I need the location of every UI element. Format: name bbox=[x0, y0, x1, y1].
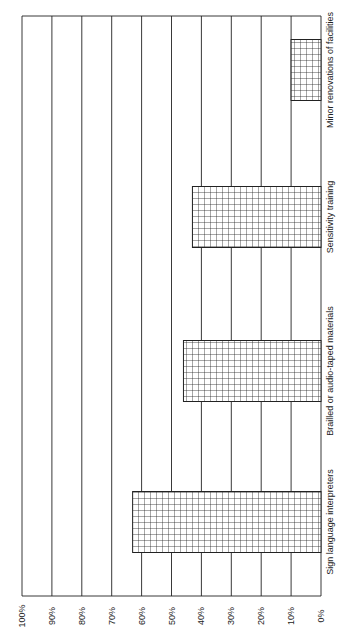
y-tick-label: 50% bbox=[167, 607, 177, 625]
bar bbox=[133, 492, 321, 553]
y-tick-label: 90% bbox=[47, 607, 57, 625]
category-label: Brailled or audio-taped materials bbox=[325, 306, 335, 436]
bar-chart: 0%10%20%30%40%50%60%70%80%90%100% Sign l… bbox=[0, 0, 356, 641]
y-tick-label: 20% bbox=[256, 607, 266, 625]
y-tick-label: 60% bbox=[137, 607, 147, 625]
category-label: Minor renovations of facilities bbox=[325, 11, 335, 128]
y-axis-ticks: 0%10%20%30%40%50%60%70%80%90%100% bbox=[17, 604, 326, 627]
y-tick-label: 30% bbox=[226, 607, 236, 625]
bar bbox=[192, 187, 321, 248]
category-labels: Sign language interpretersBrailled or au… bbox=[325, 11, 335, 574]
y-tick-label: 0% bbox=[316, 609, 326, 622]
category-label: Sign language interpreters bbox=[325, 469, 335, 575]
bar bbox=[183, 341, 321, 402]
y-tick-label: 40% bbox=[196, 607, 206, 625]
y-tick-label: 80% bbox=[77, 607, 87, 625]
y-tick-label: 10% bbox=[286, 607, 296, 625]
bar bbox=[291, 40, 321, 101]
y-tick-label: 70% bbox=[107, 607, 117, 625]
category-label: Sensitivity training bbox=[325, 181, 335, 254]
bars bbox=[133, 40, 321, 553]
y-tick-label: 100% bbox=[17, 604, 27, 627]
